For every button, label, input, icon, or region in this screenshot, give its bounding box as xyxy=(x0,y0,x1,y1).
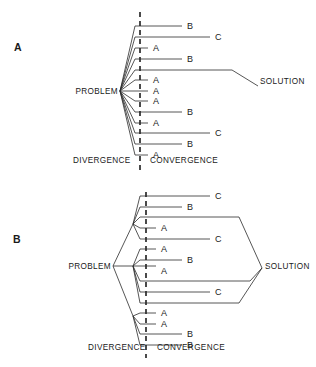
branch-label: A xyxy=(153,86,159,96)
panel-b-converge-lines xyxy=(239,217,262,303)
branch-label: C xyxy=(215,32,222,42)
panel-b-solution-label: SOLUTION xyxy=(265,262,310,271)
panel-a-solution-label: SOLUTION xyxy=(260,77,305,86)
branch-label: A xyxy=(161,308,167,318)
branch-line xyxy=(133,207,182,224)
panel-a-solution-connector xyxy=(232,70,258,86)
branch-line xyxy=(133,266,250,281)
panel-a-divergence-label: DIVERGENCE xyxy=(73,156,131,165)
branch-line xyxy=(120,37,210,91)
branch-label: A xyxy=(161,319,167,329)
branch-line xyxy=(133,316,182,334)
panel-b-trunk-lines xyxy=(113,224,133,316)
panel-b-label: B xyxy=(13,233,21,245)
branch-label: C xyxy=(215,287,222,297)
branch-label: B xyxy=(187,329,193,339)
branch-label: B xyxy=(187,255,193,265)
divergence-convergence-diagram: A PROBLEM B C A xyxy=(0,0,316,367)
panel-a-label: A xyxy=(14,41,22,53)
branch-line xyxy=(133,316,182,345)
branch-line xyxy=(133,217,239,224)
branch-label: B xyxy=(187,21,193,31)
panel-a-branch-labels: B C A B A A A B A C B A xyxy=(153,21,222,160)
branch-line xyxy=(133,316,156,324)
branch-line xyxy=(133,224,210,239)
branch-label: A xyxy=(153,75,159,85)
branch-label: A xyxy=(161,223,167,233)
branch-label: B xyxy=(187,202,193,212)
branch-label: B xyxy=(187,107,193,117)
branch-label: B xyxy=(187,139,193,149)
panel-b-problem-label: PROBLEM xyxy=(69,262,112,271)
branch-line xyxy=(120,70,232,91)
branch-label: A xyxy=(161,244,167,254)
branch-label: A xyxy=(161,266,167,276)
panel-b-divergence-label: DIVERGENCE xyxy=(88,343,146,352)
branch-line xyxy=(133,260,182,266)
branch-label: C xyxy=(215,234,222,244)
branch-line xyxy=(133,266,210,292)
branch-line xyxy=(133,224,156,228)
branch-line xyxy=(133,266,239,303)
panel-a: A PROBLEM B C A xyxy=(14,12,305,174)
panel-b-convergence-label: CONVERGENCE xyxy=(157,343,225,352)
branch-line xyxy=(120,91,182,112)
panel-b-branch-labels: C B A C A B A C A A B B xyxy=(161,191,222,350)
trunk-line xyxy=(113,224,133,266)
branch-label: A xyxy=(153,43,159,53)
branch-label: C xyxy=(215,191,222,201)
branch-label: B xyxy=(187,54,193,64)
branch-label: C xyxy=(215,128,222,138)
panel-a-problem-label: PROBLEM xyxy=(76,87,119,96)
panel-b: B PROBLEM xyxy=(13,191,310,358)
branch-label: A xyxy=(153,96,159,106)
branch-label: A xyxy=(153,118,159,128)
figure-root: A PROBLEM B C A xyxy=(0,0,316,367)
trunk-line xyxy=(113,266,133,316)
converge-line xyxy=(250,268,262,281)
branch-line xyxy=(133,196,210,224)
converge-line xyxy=(239,268,262,303)
panel-b-branch-lines xyxy=(133,196,250,345)
panel-a-convergence-label: CONVERGENCE xyxy=(150,156,218,165)
converge-line xyxy=(239,217,262,268)
branch-line xyxy=(133,313,156,316)
